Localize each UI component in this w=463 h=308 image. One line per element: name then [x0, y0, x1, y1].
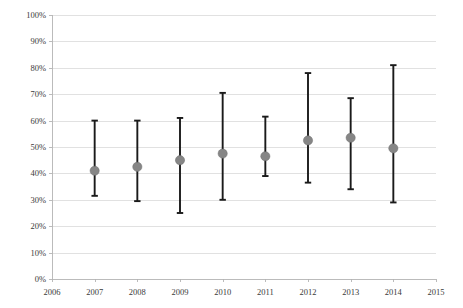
x-tick-label-2006: 2006 [44, 287, 61, 297]
data-point-2010 [218, 93, 227, 200]
point-marker-2009 [175, 156, 184, 165]
error-bar-chart: 0%10%20%30%40%50%60%70%80%90%100% 200620… [0, 0, 463, 308]
y-tick-label-80pct: 80% [30, 63, 46, 73]
chart-container: 0%10%20%30%40%50%60%70%80%90%100% 200620… [0, 0, 463, 308]
x-tick-label-2015: 2015 [428, 287, 445, 297]
point-marker-2013 [346, 133, 355, 142]
y-tick-label-30pct: 30% [30, 195, 46, 205]
point-marker-2011 [261, 152, 270, 161]
y-tick-label-0pct: 0% [35, 274, 46, 284]
x-tick-label-2010: 2010 [214, 287, 231, 297]
data-point-2011 [261, 117, 270, 176]
y-tick-label-40pct: 40% [30, 168, 46, 178]
data-point-2007 [90, 121, 99, 196]
point-marker-2010 [218, 149, 227, 158]
x-tick-label-2012: 2012 [300, 287, 317, 297]
y-tick-label-50pct: 50% [30, 142, 46, 152]
data-point-2008 [133, 121, 142, 202]
point-marker-2007 [90, 166, 99, 175]
point-marker-2008 [133, 162, 142, 171]
point-marker-2014 [389, 144, 398, 153]
y-tick-label-20pct: 20% [30, 221, 46, 231]
data-point-2009 [175, 118, 184, 213]
x-tick-label-2013: 2013 [342, 287, 359, 297]
gridlines-group [52, 16, 436, 254]
x-tick-label-2008: 2008 [129, 287, 146, 297]
point-marker-2012 [303, 136, 312, 145]
y-tick-label-70pct: 70% [30, 89, 46, 99]
y-tick-labels-group: 0%10%20%30%40%50%60%70%80%90%100% [26, 10, 46, 284]
x-tick-label-2011: 2011 [257, 287, 274, 297]
x-tick-label-2014: 2014 [385, 287, 403, 297]
y-tick-label-10pct: 10% [30, 248, 46, 258]
data-points-group [90, 65, 398, 213]
y-tick-label-100pct: 100% [26, 10, 46, 20]
data-point-2013 [346, 98, 355, 189]
data-point-2014 [389, 65, 398, 202]
x-tick-labels-group: 2006200720082009201020112012201320142015 [44, 287, 445, 297]
data-point-2012 [303, 73, 312, 183]
y-tick-label-90pct: 90% [30, 36, 46, 46]
axes-group [49, 15, 437, 282]
x-tick-label-2009: 2009 [172, 287, 189, 297]
y-tick-label-60pct: 60% [30, 116, 46, 126]
x-tick-label-2007: 2007 [86, 287, 103, 297]
